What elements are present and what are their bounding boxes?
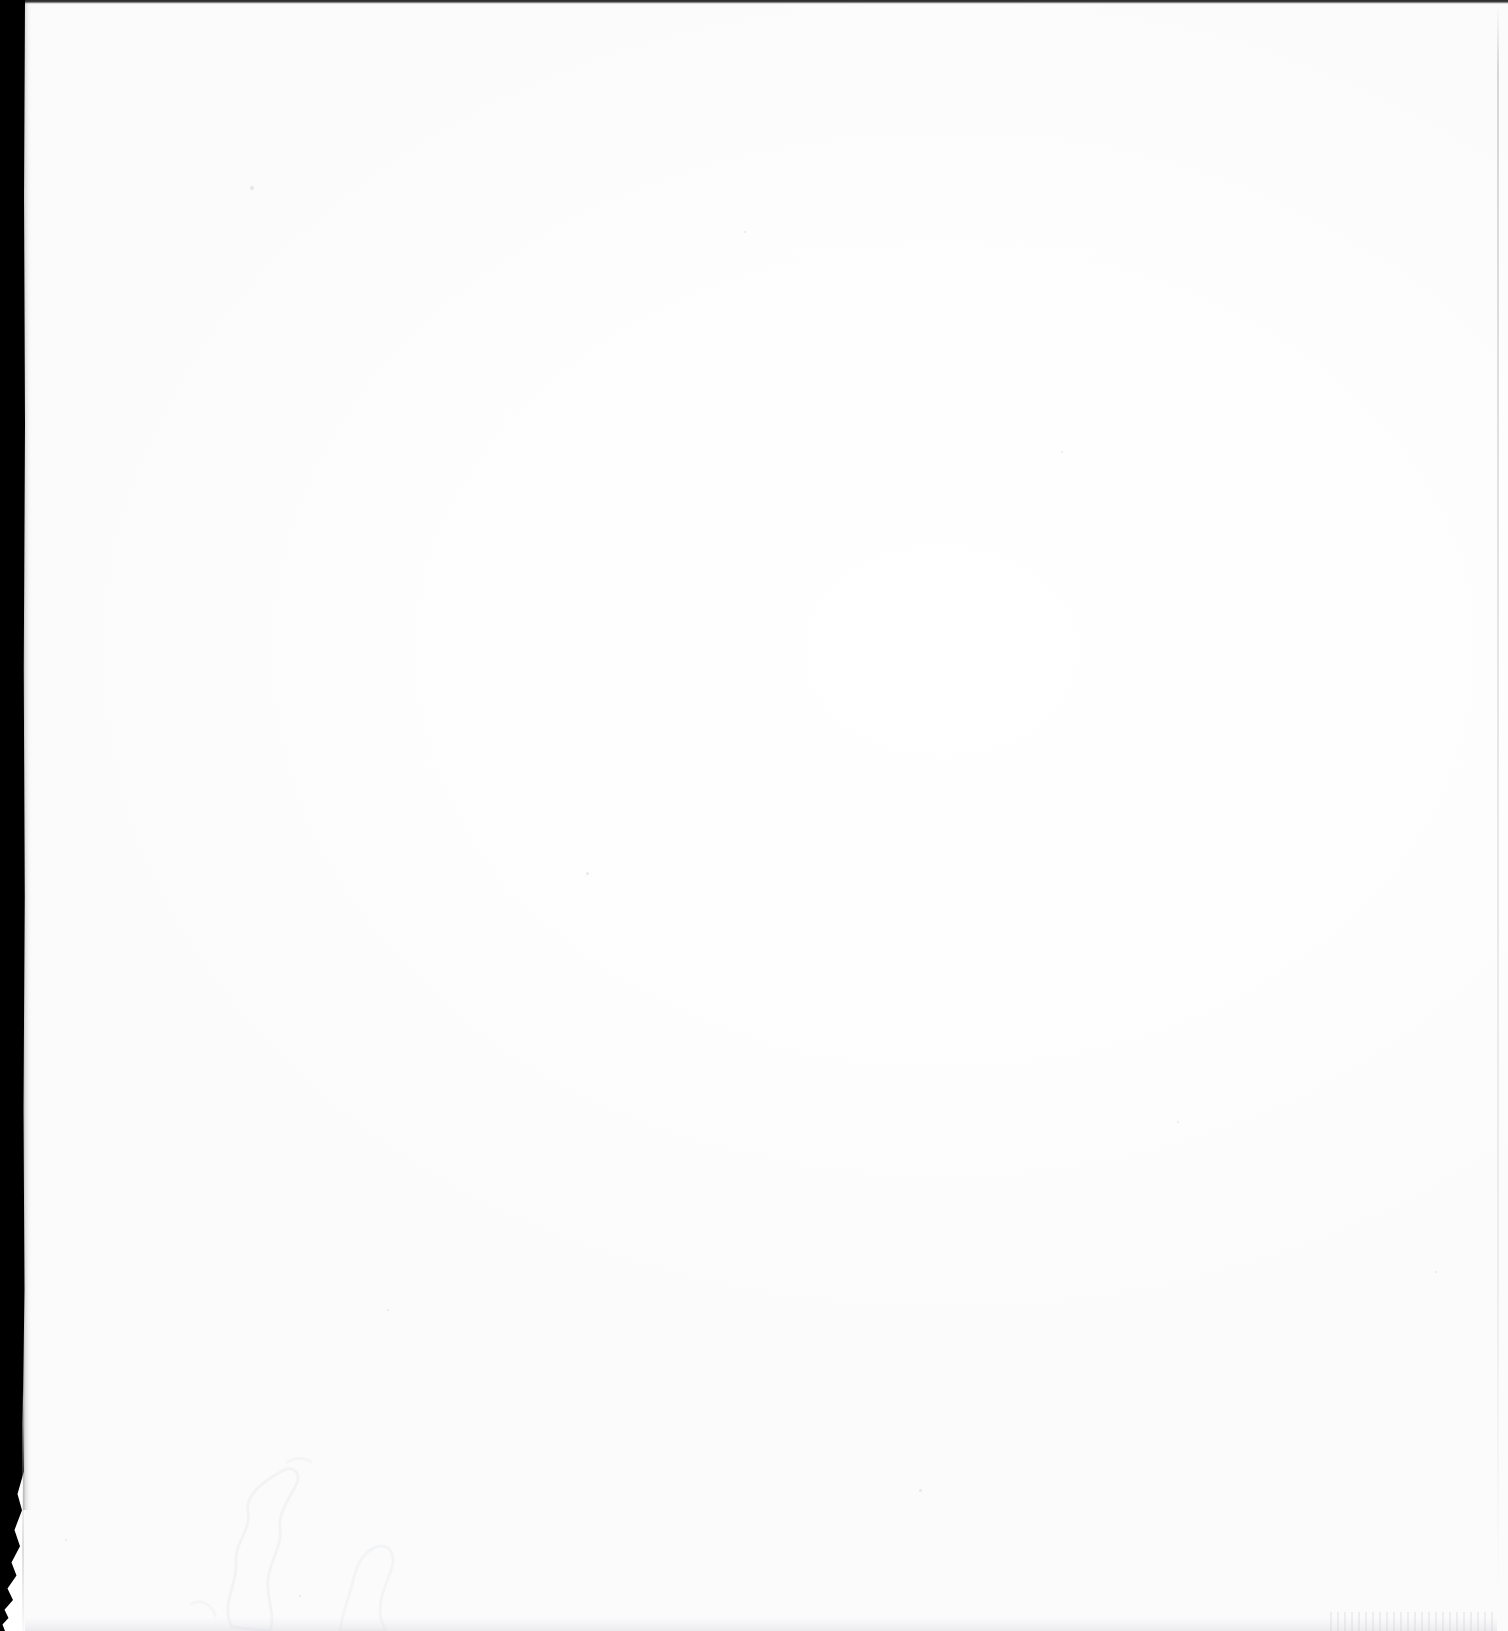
paper-surface [0, 0, 1508, 1631]
left-binding-shadow [0, 0, 25, 1631]
right-page-edge-rule [1497, 6, 1499, 1606]
top-scan-edge-line [0, 0, 1508, 4]
scanned-page [0, 0, 1508, 1631]
